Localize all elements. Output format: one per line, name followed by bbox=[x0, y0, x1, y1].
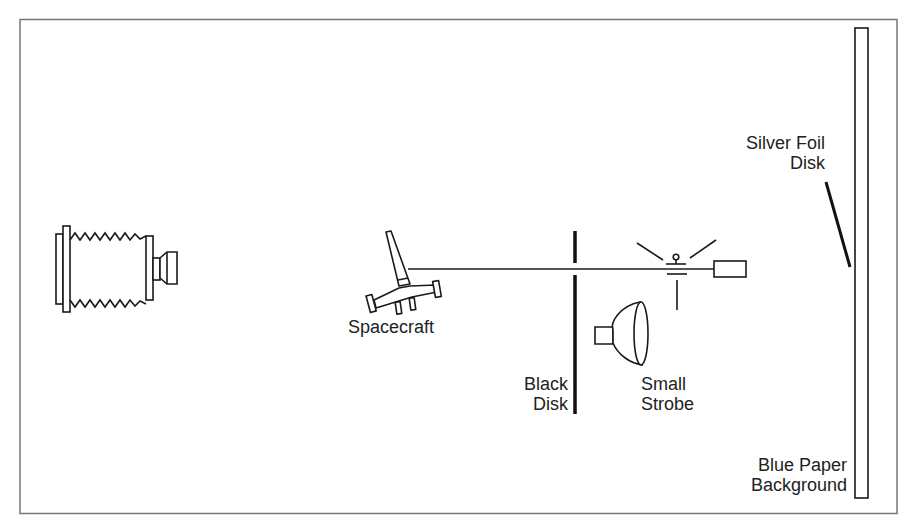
silver-foil-disk-label-line2: Disk bbox=[700, 153, 825, 173]
mount-icon bbox=[637, 240, 746, 310]
silver-foil-disk-label-line1: Silver Foil bbox=[700, 133, 825, 153]
small-strobe-label-line1: Small bbox=[641, 374, 694, 394]
blue-paper-label-line1: Blue Paper bbox=[700, 455, 847, 475]
black-disk-label: Black Disk bbox=[500, 374, 568, 414]
blue-paper-background-icon bbox=[855, 28, 868, 498]
black-disk-label-line1: Black bbox=[500, 374, 568, 394]
blue-paper-label-line2: Background bbox=[700, 475, 847, 495]
silver-foil-disk-icon bbox=[826, 182, 850, 267]
diagram-drawing bbox=[0, 0, 902, 526]
diagram-canvas: Spacecraft Black Disk Small Strobe Silve… bbox=[0, 0, 902, 526]
spacecraft-label: Spacecraft bbox=[348, 317, 434, 337]
spacecraft-icon bbox=[366, 231, 441, 314]
small-strobe-label-line2: Strobe bbox=[641, 394, 694, 414]
blue-paper-background-label: Blue Paper Background bbox=[700, 455, 847, 495]
small-strobe-icon bbox=[595, 302, 648, 365]
small-strobe-label: Small Strobe bbox=[641, 374, 694, 414]
camera-icon bbox=[56, 226, 177, 312]
black-disk-label-line2: Disk bbox=[500, 394, 568, 414]
silver-foil-disk-label: Silver Foil Disk bbox=[700, 133, 825, 173]
